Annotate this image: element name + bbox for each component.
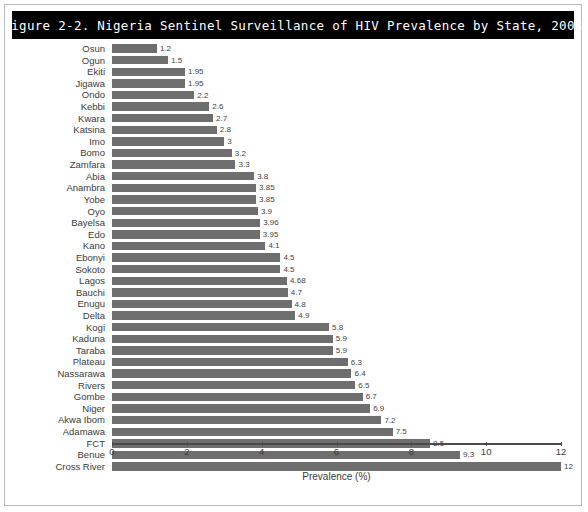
- bar-row: Ondo2.2: [5, 89, 583, 101]
- x-axis-ticks: 024681012: [112, 446, 561, 462]
- bar-row: Osun1.2: [5, 43, 583, 55]
- bar-category-label: Cross River: [5, 461, 105, 473]
- bar: [112, 404, 370, 412]
- bar-row: Adamawa7.5: [5, 426, 583, 438]
- bar-value-label: 2.6: [212, 101, 223, 112]
- bar-rows: Osun1.2Ogun1.5Ekiti1.95Jigawa1.95Ondo2.2…: [5, 43, 583, 473]
- bar-category-label: Niger: [5, 403, 105, 415]
- bar-category-label: Jigawa: [5, 78, 105, 90]
- bar-category-label: Imo: [5, 136, 105, 148]
- bar-value-label: 4.5: [283, 252, 294, 263]
- bar-value-label: 7.5: [396, 426, 407, 437]
- x-axis-tick-label: 10: [481, 446, 492, 457]
- bar-row: Kebbi2.6: [5, 101, 583, 113]
- bar-category-label: Ekiti: [5, 66, 105, 78]
- bar-value-label: 4.7: [291, 287, 302, 298]
- bar-category-label: Kano: [5, 240, 105, 252]
- bar-track: 3: [112, 137, 579, 145]
- bar-category-label: Zamfara: [5, 159, 105, 171]
- x-axis-tick-label: 4: [259, 446, 264, 457]
- figure-title-banner: Figure 2-2. Nigeria Sentinel Surveillanc…: [12, 11, 574, 39]
- bar-row: Gombe6.7: [5, 391, 583, 403]
- bar-category-label: Yobe: [5, 194, 105, 206]
- bar: [112, 102, 209, 110]
- bar-category-label: Taraba: [5, 345, 105, 357]
- bar-value-label: 2.2: [197, 90, 208, 101]
- bar-value-label: 5.9: [336, 333, 347, 344]
- bar-track: 2.2: [112, 91, 579, 99]
- bar-track: 1.95: [112, 68, 579, 76]
- bar-value-label: 12: [564, 461, 573, 472]
- bar-row: Imo3: [5, 136, 583, 148]
- bar-value-label: 2.7: [216, 113, 227, 124]
- bar-category-label: Bauchi: [5, 287, 105, 299]
- bar-track: 5.9: [112, 346, 579, 354]
- bar: [112, 149, 232, 157]
- bar-track: 7.5: [112, 428, 579, 436]
- bar-value-label: 1.95: [188, 66, 204, 77]
- bar-category-label: Ondo: [5, 89, 105, 101]
- bar-track: 7.2: [112, 416, 579, 424]
- bar-row: Bauchi4.7: [5, 287, 583, 299]
- bar-track: 4.5: [112, 265, 579, 273]
- bar: [112, 184, 256, 192]
- bar: [112, 346, 333, 354]
- bar-value-label: 4.1: [268, 240, 279, 251]
- bar-category-label: FCT: [5, 438, 105, 450]
- bar-value-label: 3.8: [257, 171, 268, 182]
- bar-category-label: Kwara: [5, 113, 105, 125]
- bar-value-label: 6.7: [366, 391, 377, 402]
- bar-row: Kwara2.7: [5, 113, 583, 125]
- bar-row: Enugu4.8: [5, 298, 583, 310]
- bar-value-label: 3.96: [263, 217, 279, 228]
- bar-category-label: Benue: [5, 449, 105, 461]
- bar-row: Lagos4.68: [5, 275, 583, 287]
- bar: [112, 462, 561, 470]
- chart-plot-area: Osun1.2Ogun1.5Ekiti1.95Jigawa1.95Ondo2.2…: [5, 43, 583, 505]
- bar-category-label: Rivers: [5, 380, 105, 392]
- bar: [112, 172, 254, 180]
- bar-category-label: Anambra: [5, 182, 105, 194]
- figure-container: Figure 2-2. Nigeria Sentinel Surveillanc…: [4, 4, 582, 506]
- bar-row: Edo3.95: [5, 229, 583, 241]
- bar-row: Nassarawa6.4: [5, 368, 583, 380]
- bar-value-label: 3.95: [263, 229, 279, 240]
- bar: [112, 195, 256, 203]
- bar-category-label: Ogun: [5, 55, 105, 67]
- bar-category-label: Sokoto: [5, 264, 105, 276]
- bar: [112, 160, 235, 168]
- bar-row: Zamfara3.3: [5, 159, 583, 171]
- bar-value-label: 7.2: [384, 415, 395, 426]
- bar: [112, 381, 355, 389]
- bar-row: Akwa Ibom7.2: [5, 415, 583, 427]
- bar-row: Ekiti1.95: [5, 66, 583, 78]
- bar-value-label: 1.5: [171, 55, 182, 66]
- bar-value-label: 5.8: [332, 322, 343, 333]
- bar-value-label: 6.4: [354, 368, 365, 379]
- bar-row: Kano4.1: [5, 240, 583, 252]
- bar-row: Oyo3.9: [5, 206, 583, 218]
- bar-category-label: Oyo: [5, 206, 105, 218]
- bar-row: Bomo3.2: [5, 147, 583, 159]
- bar-track: 6.9: [112, 404, 579, 412]
- bar: [112, 428, 393, 436]
- bar: [112, 416, 381, 424]
- bar-row: Katsina2.8: [5, 124, 583, 136]
- bar-category-label: Katsina: [5, 124, 105, 136]
- bar-value-label: 2.8: [220, 124, 231, 135]
- bar-category-label: Kogi: [5, 322, 105, 334]
- bar-track: 6.4: [112, 369, 579, 377]
- bar: [112, 56, 168, 64]
- bar-category-label: Bayelsa: [5, 217, 105, 229]
- bar-track: 2.6: [112, 102, 579, 110]
- bar: [112, 277, 287, 285]
- bar-category-label: Adamawa: [5, 426, 105, 438]
- bar: [112, 242, 265, 250]
- bar-track: 2.7: [112, 114, 579, 122]
- bar-track: 3.85: [112, 195, 579, 203]
- x-axis-tick-label: 0: [109, 446, 114, 457]
- bar: [112, 219, 260, 227]
- bar-value-label: 6.5: [358, 380, 369, 391]
- bar-category-label: Osun: [5, 43, 105, 55]
- bar-value-label: 4.8: [295, 299, 306, 310]
